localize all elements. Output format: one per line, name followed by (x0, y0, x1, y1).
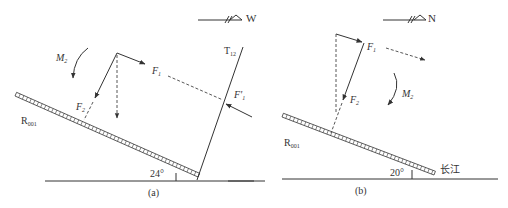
moment-arrow-m2-b (388, 73, 397, 105)
f2-line-of-action (84, 102, 93, 120)
force-label-f1-prime: F'1 (233, 89, 245, 101)
plane-label-b: R001 (284, 137, 300, 149)
direction-symbol-n: N (383, 12, 436, 24)
caption-b: (b) (355, 185, 367, 197)
f1-line-of-action (168, 76, 223, 100)
force-arrow-f2 (95, 53, 117, 98)
moment-label-b: M2 (401, 88, 413, 100)
moment-label-a: M2 (55, 52, 67, 64)
moment-arrow-m2-a (73, 48, 88, 78)
direction-label-w: W (246, 12, 257, 24)
f2-line-of-action-b (331, 103, 342, 133)
direction-label-n: N (428, 12, 436, 24)
fault-line-t12 (197, 47, 243, 180)
diagram-canvas: W 24° T12 F1 F'1 F2 M2 R001 (a) (0, 0, 508, 208)
inclined-plane-a (15, 92, 200, 177)
direction-symbol-w: W (198, 12, 257, 24)
inclined-plane-b (282, 113, 435, 175)
river-label: 长江 (440, 164, 460, 175)
force-label-f1: F1 (151, 65, 161, 77)
f1-line-of-action-b (386, 48, 425, 60)
angle-label-b: 20° (390, 167, 404, 178)
force-arrow-f1-prime (226, 104, 252, 117)
panel-a: W 24° T12 F1 F'1 F2 M2 R001 (a) (15, 12, 257, 199)
plane-outline (282, 113, 435, 175)
force-arrow-f1-b (336, 34, 362, 42)
plane-label-a: R001 (21, 115, 37, 127)
force-label-f2: F2 (75, 101, 85, 113)
panel-b: N 20° 长江 F1 F2 M2 R001 (b) (228, 12, 498, 197)
force-arrow-f1 (117, 53, 145, 64)
fault-label: T12 (224, 45, 236, 57)
force-label-f2-b: F2 (349, 94, 359, 106)
angle-label-a: 24° (150, 168, 164, 179)
caption-a: (a) (148, 187, 159, 199)
force-label-f1-b: F1 (366, 41, 376, 53)
force-arrow-f2-b (343, 43, 364, 100)
